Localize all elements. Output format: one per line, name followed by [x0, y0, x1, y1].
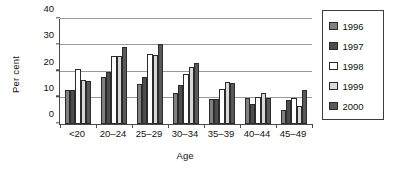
- bar: [230, 83, 235, 124]
- bar-group: [204, 19, 240, 124]
- y-axis-tick-label: 40: [43, 3, 60, 14]
- x-axis-tick-label: 25–29: [131, 128, 167, 142]
- bar-group: [96, 19, 132, 124]
- legend-item: 1996: [329, 16, 383, 36]
- legend-swatch: [329, 62, 338, 71]
- bar: [86, 81, 91, 124]
- bar-group: [168, 19, 204, 124]
- x-axis-tickmark: [312, 124, 313, 128]
- x-axis-tick-label: 40–44: [239, 128, 275, 142]
- bar-chart-figure: Per cent 010203040 <2020–2425–2930–3435–…: [0, 0, 393, 175]
- x-axis-labels: <2020–2425–2930–3435–3940–4445–49: [59, 128, 311, 142]
- legend-swatch: [329, 82, 338, 91]
- legend-item: 1998: [329, 56, 383, 76]
- legend: 19961997199819992000: [322, 10, 384, 120]
- y-axis-tick-label: 20: [43, 55, 60, 66]
- bar: [302, 90, 307, 124]
- bar-group: [60, 19, 96, 124]
- bar-group: [132, 19, 168, 124]
- bar: [194, 63, 199, 124]
- x-axis-tick-label: 45–49: [275, 128, 311, 142]
- y-axis-title: Per cent: [8, 36, 22, 112]
- legend-item: 2000: [329, 96, 383, 116]
- bar: [122, 47, 127, 124]
- y-axis-title-text: Per cent: [10, 56, 21, 93]
- legend-swatch: [329, 42, 338, 51]
- bar-groups: [60, 19, 312, 124]
- bar: [158, 44, 163, 124]
- legend-item: 1999: [329, 76, 383, 96]
- legend-label: 2000: [343, 101, 364, 112]
- x-axis-tick-label: 30–34: [167, 128, 203, 142]
- x-axis-tick-label: 20–24: [95, 128, 131, 142]
- legend-label: 1996: [343, 21, 364, 32]
- legend-swatch: [329, 22, 338, 31]
- legend-label: 1999: [343, 81, 364, 92]
- bar-group: [276, 19, 312, 124]
- bar: [266, 98, 271, 124]
- legend-item: 1997: [329, 36, 383, 56]
- y-axis-tick-label: 10: [43, 81, 60, 92]
- x-axis-tick-label: <20: [59, 128, 95, 142]
- legend-label: 1997: [343, 41, 364, 52]
- plot-area: 010203040: [59, 19, 312, 125]
- bar-group: [240, 19, 276, 124]
- legend-label: 1998: [343, 61, 364, 72]
- x-axis-tick-label: 35–39: [203, 128, 239, 142]
- y-axis-tick-label: 0: [49, 108, 60, 119]
- y-axis-tick-label: 30: [43, 29, 60, 40]
- x-axis-title: Age: [59, 150, 311, 161]
- legend-swatch: [329, 102, 338, 111]
